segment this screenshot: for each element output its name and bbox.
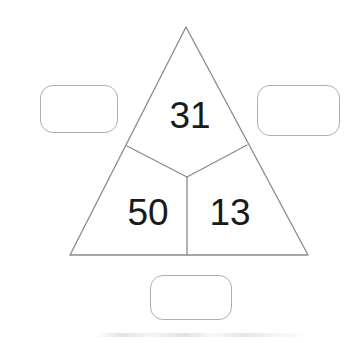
triangle-outline bbox=[70, 27, 308, 255]
puzzle-canvas: 31 50 13 bbox=[0, 0, 354, 343]
bottom-answer-box[interactable] bbox=[150, 275, 232, 320]
left-answer-box[interactable] bbox=[40, 85, 118, 133]
region-value-bottom-right: 13 bbox=[209, 194, 250, 231]
region-value-bottom-left: 50 bbox=[127, 194, 168, 231]
region-value-top: 31 bbox=[169, 97, 210, 134]
scan-artifact bbox=[96, 333, 310, 337]
right-answer-box[interactable] bbox=[257, 85, 340, 136]
